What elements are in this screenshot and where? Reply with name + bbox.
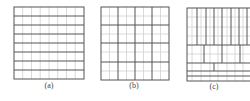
panel-label-a: (a)	[45, 81, 54, 90]
panel-label-b: (b)	[129, 81, 138, 90]
grid-panel-b	[101, 7, 169, 80]
grid-panel-a	[14, 7, 84, 79]
panel-label-c: (c)	[210, 82, 219, 91]
grid-panel-c	[187, 8, 250, 81]
